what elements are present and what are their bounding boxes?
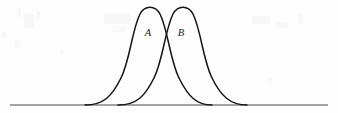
curve-label-b: B xyxy=(178,27,185,38)
curve-label-a: A xyxy=(144,27,152,38)
curve-a-path xyxy=(85,7,212,105)
distribution-plot: A B xyxy=(0,0,338,113)
figure-canvas: A B xyxy=(0,0,338,113)
